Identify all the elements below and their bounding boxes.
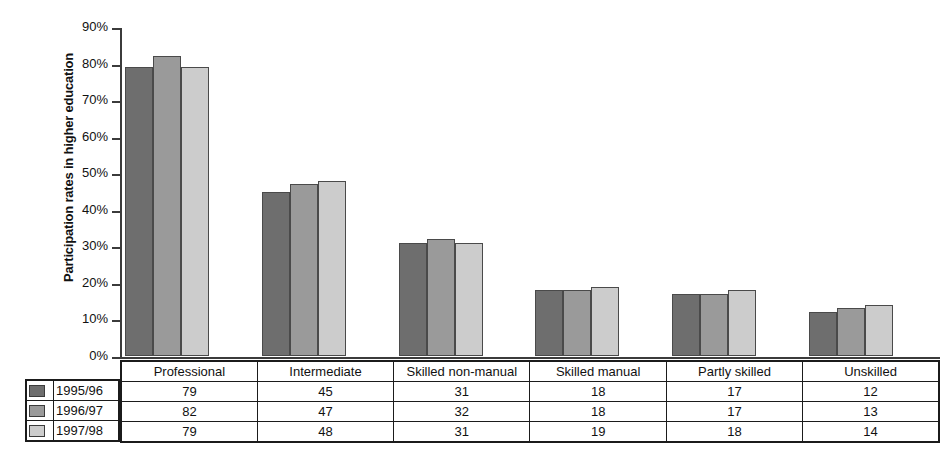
y-tick-label: 20% bbox=[48, 275, 108, 290]
bar bbox=[262, 192, 290, 357]
bar bbox=[318, 181, 346, 356]
legend-series-label: 1997/98 bbox=[54, 421, 120, 442]
table-cell: 82 bbox=[121, 402, 257, 422]
y-tick-label: 70% bbox=[48, 92, 108, 107]
x-axis-line bbox=[120, 357, 940, 359]
table-cell: 19 bbox=[530, 422, 666, 443]
bar bbox=[672, 294, 700, 356]
table-cell: 18 bbox=[666, 422, 802, 443]
table-cell: 45 bbox=[257, 382, 393, 402]
legend-row: 1997/98 bbox=[26, 421, 119, 442]
y-tick-mark bbox=[112, 65, 120, 67]
table-cell: 18 bbox=[530, 402, 666, 422]
legend-swatch-cell bbox=[26, 380, 54, 401]
bar bbox=[809, 312, 837, 356]
table-row: 794831191814 bbox=[121, 422, 939, 443]
bar bbox=[455, 243, 483, 356]
table-cell: 17 bbox=[666, 402, 802, 422]
y-tick-mark bbox=[112, 284, 120, 286]
y-tick-label: 80% bbox=[48, 56, 108, 71]
y-tick-mark bbox=[112, 101, 120, 103]
table-header-row: ProfessionalIntermediateSkilled non-manu… bbox=[121, 361, 939, 382]
table-column-header: Skilled manual bbox=[530, 361, 666, 382]
y-tick-label: 90% bbox=[48, 19, 108, 34]
table-column-header: Partly skilled bbox=[666, 361, 802, 382]
chart-figure: Participation rates in higher education … bbox=[0, 0, 952, 463]
y-tick-label: 60% bbox=[48, 129, 108, 144]
bar bbox=[865, 305, 893, 356]
table-cell: 79 bbox=[121, 422, 257, 443]
y-tick-label: 50% bbox=[48, 165, 108, 180]
table-cell: 31 bbox=[394, 422, 530, 443]
table-row: 794531181712 bbox=[121, 382, 939, 402]
y-axis-line bbox=[120, 28, 122, 359]
table-cell: 18 bbox=[530, 382, 666, 402]
bar bbox=[700, 294, 728, 356]
bar bbox=[125, 67, 153, 356]
legend-row: 1996/97 bbox=[26, 401, 119, 421]
table-cell: 48 bbox=[257, 422, 393, 443]
y-tick-mark bbox=[112, 320, 120, 322]
y-tick-label: 30% bbox=[48, 238, 108, 253]
table-column-header: Professional bbox=[121, 361, 257, 382]
legend-swatch bbox=[29, 405, 45, 417]
y-tick-mark bbox=[112, 174, 120, 176]
table-cell: 14 bbox=[803, 422, 939, 443]
table-cell: 12 bbox=[803, 382, 939, 402]
table-column-header: Intermediate bbox=[257, 361, 393, 382]
y-tick-mark bbox=[112, 28, 120, 30]
bar bbox=[591, 287, 619, 356]
y-tick-label: 0% bbox=[48, 348, 108, 363]
y-tick-mark bbox=[112, 357, 120, 359]
table-column-header: Skilled non-manual bbox=[394, 361, 530, 382]
y-tick-label: 10% bbox=[48, 311, 108, 326]
bar bbox=[535, 290, 563, 356]
legend-table: 1995/961996/971997/98 bbox=[25, 379, 120, 442]
table-cell: 32 bbox=[394, 402, 530, 422]
bar bbox=[728, 290, 756, 356]
legend-swatch-cell bbox=[26, 401, 54, 421]
table-cell: 13 bbox=[803, 402, 939, 422]
y-tick-label: 40% bbox=[48, 202, 108, 217]
table-cell: 79 bbox=[121, 382, 257, 402]
legend-swatch bbox=[29, 385, 45, 397]
y-tick-mark bbox=[112, 211, 120, 213]
table-row: 824732181713 bbox=[121, 402, 939, 422]
y-tick-mark bbox=[112, 138, 120, 140]
legend-swatch bbox=[29, 425, 45, 437]
legend-series-label: 1996/97 bbox=[54, 401, 120, 421]
table-cell: 31 bbox=[394, 382, 530, 402]
bar bbox=[399, 243, 427, 356]
y-tick-mark bbox=[112, 247, 120, 249]
legend-series-label: 1995/96 bbox=[54, 380, 120, 401]
bar bbox=[563, 290, 591, 356]
data-table: ProfessionalIntermediateSkilled non-manu… bbox=[120, 360, 940, 443]
table-column-header: Unskilled bbox=[803, 361, 939, 382]
bar bbox=[290, 184, 318, 356]
plot-area: 90%80%70%60%50%40%30%20%10%0% bbox=[120, 28, 940, 358]
table-cell: 47 bbox=[257, 402, 393, 422]
table-cell: 17 bbox=[666, 382, 802, 402]
bar bbox=[153, 56, 181, 356]
bar bbox=[181, 67, 209, 356]
bar bbox=[837, 308, 865, 356]
legend-row: 1995/96 bbox=[26, 380, 119, 401]
bar bbox=[427, 239, 455, 356]
legend-swatch-cell bbox=[26, 421, 54, 442]
